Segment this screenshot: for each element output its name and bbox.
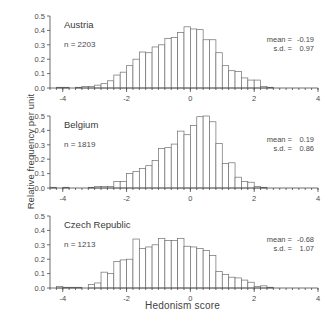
histogram-bar [95, 283, 101, 288]
histogram-bar [171, 144, 177, 188]
histogram-bar [235, 278, 241, 288]
histogram-bar [146, 53, 152, 88]
x-axis-tick-label: 4 [316, 94, 320, 103]
histogram-bar [165, 38, 171, 88]
x-axis-tick-label: -4 [59, 94, 66, 103]
histogram-bar [241, 182, 247, 188]
histogram-bar [114, 75, 120, 88]
histogram-bar [178, 238, 184, 288]
y-axis-tick-label: 0.0 [35, 184, 45, 193]
x-axis-label: Hedonism score [45, 300, 320, 311]
histogram-bar [95, 85, 101, 88]
histogram-bar [101, 272, 107, 288]
histogram-figure: Relative frequency per unit 0.00.10.20.3… [0, 0, 328, 324]
y-axis-tick-label: 0.3 [35, 241, 45, 250]
histogram-bar [235, 71, 241, 88]
x-axis-tick-label: 0 [188, 194, 192, 203]
panel-belgium: 0.00.10.20.30.40.5-4-2024Belgiumn = 1819… [24, 112, 324, 208]
histogram-bar [216, 53, 222, 88]
y-axis-tick-label: 0.2 [35, 155, 45, 164]
histogram-bar [133, 171, 139, 188]
sd-label: s.d. = [273, 44, 292, 53]
y-axis-tick-label: 0.1 [35, 69, 45, 78]
histogram-bar [158, 45, 164, 88]
panel-austria: 0.00.10.20.30.40.5-4-2024Austrian = 2203… [24, 12, 324, 108]
histogram-bar [127, 174, 133, 188]
histogram-bar [184, 246, 190, 288]
histogram-bar [88, 284, 94, 288]
mean-label: mean = [267, 235, 293, 244]
y-axis-tick-label: 0.0 [35, 84, 45, 93]
histogram-bar [222, 66, 228, 88]
histogram-bar [165, 240, 171, 288]
histogram-bar [235, 177, 241, 188]
histogram-bar [114, 261, 120, 288]
histogram-bar [152, 245, 158, 288]
y-axis-tick-label: 0.5 [35, 12, 45, 21]
panel-title: Czech Republic [64, 219, 131, 230]
histogram-bar [190, 29, 196, 88]
y-axis-tick-label: 0.2 [35, 255, 45, 264]
histogram-bar [203, 116, 209, 188]
histogram-bar [152, 47, 158, 88]
sample-size-label: n = 2203 [64, 40, 96, 49]
y-axis-tick-label: 0.3 [35, 141, 45, 150]
sd-value: 0.86 [299, 144, 314, 153]
histogram-bar [133, 59, 139, 88]
histogram-bar [152, 161, 158, 188]
histogram-bar [241, 78, 247, 88]
histogram-bar [107, 274, 113, 288]
x-axis-tick-label: -4 [59, 194, 66, 203]
histogram-bar [165, 148, 171, 188]
histogram-bar [120, 72, 126, 88]
y-axis-tick-label: 0.4 [35, 26, 45, 35]
sd-value: 0.97 [299, 44, 314, 53]
histogram-bar [248, 80, 254, 88]
histogram-bar [229, 163, 235, 188]
histogram-bar [216, 143, 222, 188]
panel-title: Austria [64, 19, 94, 30]
histogram-bar [114, 182, 120, 188]
x-axis-tick-label: 4 [316, 194, 320, 203]
histogram-bar [120, 182, 126, 188]
histogram-bar [197, 248, 203, 288]
histogram-bar [158, 238, 164, 288]
sd-value: 1.07 [299, 244, 314, 253]
mean-label: mean = [267, 135, 293, 144]
histogram-bar [146, 166, 152, 188]
sd-label: s.d. = [273, 144, 292, 153]
histogram-bar [203, 251, 209, 288]
x-axis-tick-label: 0 [188, 94, 192, 103]
y-axis-tick-label: 0.5 [35, 112, 45, 121]
histogram-bar [248, 282, 254, 288]
histogram-bar [178, 33, 184, 88]
mean-label: mean = [267, 35, 293, 44]
histogram-bar [146, 247, 152, 288]
histogram-bar [178, 131, 184, 188]
histogram-bar [229, 277, 235, 288]
histogram-bar [120, 260, 126, 288]
mean-value: -0.19 [297, 35, 314, 44]
histogram-bar [107, 81, 113, 88]
y-axis-tick-label: 0.1 [35, 169, 45, 178]
mean-value: -0.68 [297, 235, 314, 244]
x-axis-tick-label: -2 [123, 194, 130, 203]
histogram-bar [197, 30, 203, 88]
histogram-bar [190, 247, 196, 288]
histogram-bar [241, 280, 247, 288]
sd-label: s.d. = [273, 244, 292, 253]
panel-title: Belgium [64, 119, 98, 130]
histogram-bar [190, 125, 196, 188]
histogram-bar [184, 135, 190, 188]
histogram-bar [171, 240, 177, 288]
histogram-bar [133, 239, 139, 288]
y-axis-tick-label: 0.0 [35, 284, 45, 293]
histogram-bar [222, 164, 228, 188]
histogram-bar [139, 248, 145, 288]
x-axis-tick-label: 2 [252, 94, 256, 103]
sample-size-label: n = 1819 [64, 140, 96, 149]
y-axis-tick-label: 0.2 [35, 55, 45, 64]
histogram-bar [101, 84, 107, 88]
histogram-bar [139, 52, 145, 88]
histogram-bar [158, 148, 164, 188]
